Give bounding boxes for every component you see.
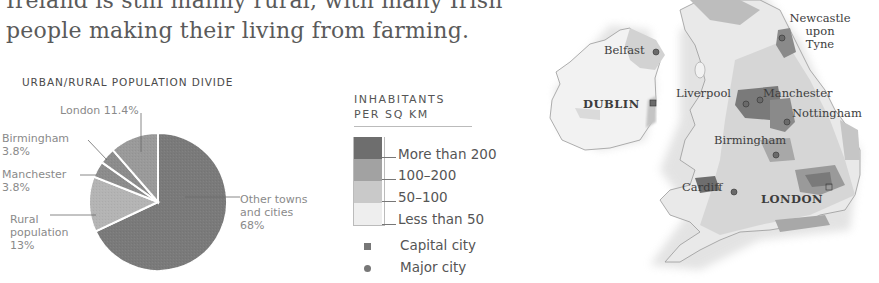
map-label-nottingham: Nottingham	[792, 107, 862, 120]
map-label-birmingham: Birmingham	[714, 134, 786, 147]
legend-label-50-100: 50–100	[398, 189, 448, 205]
legend-divider	[354, 126, 472, 127]
legend-tick	[382, 179, 396, 180]
map-label-liverpool: Liverpool	[676, 87, 731, 100]
pie-slices	[89, 133, 227, 271]
legend-label-more-than-200: More than 200	[398, 146, 497, 162]
capital-city-square-icon	[364, 243, 371, 250]
legend-swatch-frame	[353, 137, 385, 226]
pie-label-london: London 11.4%	[60, 104, 139, 117]
pie-label-manchester: Manchester 3.8%	[2, 168, 66, 194]
map-label-cardiff: Cardiff	[682, 181, 722, 194]
map-label-dublin: DUBLIN	[583, 98, 640, 111]
legend-label-100-200: 100–200	[398, 167, 456, 183]
map-label-belfast: Belfast	[604, 44, 645, 57]
legend-label-less-than-50: Less than 50	[398, 211, 484, 227]
map-label-london: LONDON	[761, 193, 823, 206]
legend-tick	[382, 224, 396, 225]
legend-title: INHABITANTS PER SQ KM	[354, 92, 445, 122]
legend-tick	[382, 201, 396, 202]
legend-tick	[382, 157, 396, 158]
legend-label-major-city: Major city	[400, 259, 466, 275]
pie-label-rural: Rural population 13%	[10, 213, 69, 252]
legend-label-capital-city: Capital city	[400, 237, 476, 253]
pie-label-other-towns: Other towns and cities 68%	[240, 193, 307, 232]
map-label-newcastle: Newcastle upon Tyne	[784, 12, 856, 51]
pie-label-birmingham: Birmingham 3.8%	[2, 132, 69, 158]
major-city-circle-icon	[364, 265, 371, 272]
map-label-manchester: Manchester	[763, 87, 833, 100]
